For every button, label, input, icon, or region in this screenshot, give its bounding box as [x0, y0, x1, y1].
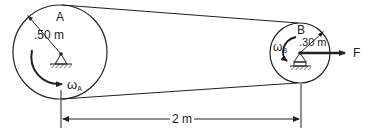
omega-symbol: ω [67, 77, 77, 92]
pulley-a-radius-label: .50 m [34, 29, 64, 41]
belt [62, 5, 298, 99]
pulley-b-radius-label: .30 m [299, 37, 327, 48]
ground-hatch-icon [50, 64, 72, 68]
omega-a-label: ωA [67, 78, 82, 92]
belt-pulley-diagram: A .50 m ωA B .30 m ωB F 2 m [0, 0, 369, 135]
omega-subscript: A [77, 85, 82, 92]
pulley-a-label: A [56, 11, 64, 23]
pulley-b-label: B [297, 24, 305, 36]
ground-hatch-icon [290, 66, 311, 70]
omega-subscript: B [282, 47, 287, 54]
center-distance-label: 2 m [172, 113, 192, 125]
force-label: F [353, 47, 360, 59]
omega-symbol: ω [273, 40, 282, 54]
omega-b-label: ωB [273, 41, 287, 54]
